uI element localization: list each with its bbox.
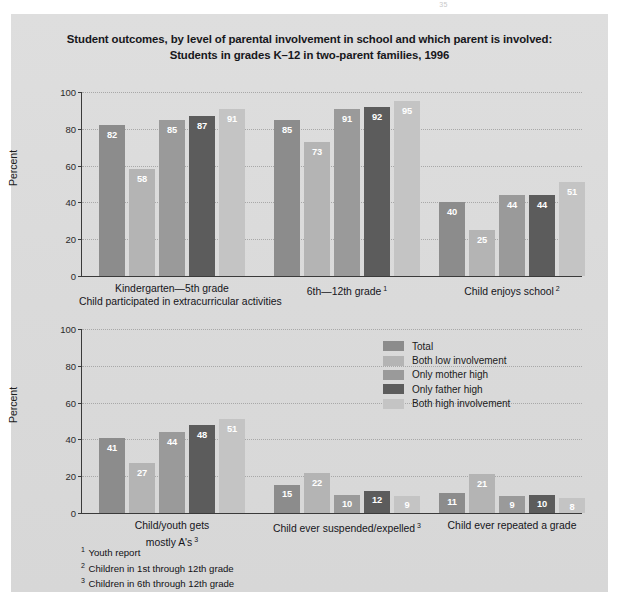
bar-value-label: 10 — [334, 499, 360, 509]
bar: 15 — [274, 485, 300, 513]
bar-value-label: 25 — [469, 235, 495, 245]
bar: 85 — [159, 120, 185, 276]
bar: 21 — [469, 474, 495, 513]
bar-value-label: 95 — [394, 106, 420, 116]
y-axis-tickmark — [78, 239, 82, 240]
page-number: 35 — [439, 1, 448, 8]
footnote: 1 Youth report — [81, 544, 234, 560]
legend-swatch — [383, 341, 404, 351]
y-axis-tickmark — [78, 329, 82, 330]
y-axis-tickmark — [78, 166, 82, 167]
bar-value-label: 40 — [439, 207, 465, 217]
legend-item: Both high involvement — [383, 397, 510, 411]
footnote: 2 Children in 1st through 12th grade — [81, 560, 234, 576]
footnote-marker: 3 — [192, 536, 198, 543]
legend-item-label: Total — [412, 341, 433, 352]
figure-title-line2: Students in grades K–12 in two-parent fa… — [11, 47, 608, 63]
y-axis-tick-label: 60 — [65, 160, 76, 171]
group-heading-label: Child participated in extracurricular ac… — [79, 296, 282, 307]
chart-panel-bottom: Percent 0204060801004127444851Child/yout… — [11, 317, 608, 582]
legend-item: Only mother high — [383, 368, 510, 382]
legend-swatch — [383, 399, 404, 409]
bar-group: 4025444451Child enjoys school 2 — [439, 92, 585, 276]
bar-value-label: 73 — [304, 147, 330, 157]
bar-value-label: 8 — [559, 502, 585, 512]
legend-item: Total — [383, 339, 510, 353]
bar-value-label: 12 — [364, 495, 390, 505]
legend-item-label: Only mother high — [412, 369, 488, 380]
bar-value-label: 11 — [439, 497, 465, 507]
figure-title: Student outcomes, by level of parental i… — [11, 31, 608, 63]
bar-value-label: 44 — [529, 200, 555, 210]
footnote-marker: 3 — [81, 577, 85, 584]
x-axis-group-label: Child enjoys school 2 — [372, 282, 620, 299]
bar-value-label: 9 — [394, 500, 420, 510]
x-axis-group-label: Child ever repeated a grade — [372, 519, 620, 533]
legend-item-label: Both high involvement — [412, 398, 510, 409]
legend-item: Both low involvement — [383, 353, 510, 367]
bar-value-label: 48 — [189, 430, 215, 440]
bar-value-label: 91 — [334, 114, 360, 124]
bar: 48 — [189, 425, 215, 513]
legend: TotalBoth low involvementOnly mother hig… — [383, 339, 510, 411]
y-axis-tick-label: 60 — [65, 397, 76, 408]
footnote: 3 Children in 6th through 12th grade — [81, 575, 234, 591]
bar: 82 — [99, 125, 125, 276]
bar-value-label: 82 — [99, 130, 125, 140]
page-canvas: 35 Student outcomes, by level of parenta… — [0, 0, 620, 604]
bar-value-label: 22 — [304, 478, 330, 488]
bar-value-label: 9 — [499, 500, 525, 510]
y-axis-tickmark — [78, 403, 82, 404]
bar: 8 — [559, 498, 585, 513]
bar-value-label: 85 — [274, 125, 300, 135]
bar: 41 — [99, 438, 125, 513]
bar: 12 — [364, 491, 390, 513]
y-axis-tick-label: 40 — [65, 434, 76, 445]
bar: 58 — [129, 169, 155, 276]
y-axis-tick-label: 0 — [71, 508, 76, 519]
legend-swatch — [383, 356, 404, 366]
y-axis-tick-label: 40 — [65, 197, 76, 208]
y-axis-tickmark — [78, 202, 82, 203]
y-axis-tickmark — [78, 439, 82, 440]
y-axis-tickmark — [78, 92, 82, 93]
footnote-marker: 2 — [554, 285, 560, 292]
bar: 44 — [529, 195, 555, 276]
bar: 11 — [439, 493, 465, 513]
bar: 73 — [304, 142, 330, 276]
bar: 85 — [274, 120, 300, 276]
chart-panel-top: Percent 0204060801008258858791Kindergart… — [11, 80, 608, 305]
plot-area-top: 0204060801008258858791Kindergarten—5th g… — [81, 92, 582, 277]
y-axis-tick-label: 20 — [65, 234, 76, 245]
y-axis-tick-label: 100 — [60, 87, 76, 98]
bar: 27 — [129, 463, 155, 513]
legend-item-label: Both low involvement — [412, 355, 507, 366]
bar: 51 — [559, 182, 585, 276]
bar: 92 — [364, 107, 390, 276]
legend-item-label: Only father high — [412, 384, 483, 395]
y-axis-tickmark — [78, 476, 82, 477]
y-axis-tick-label: 80 — [65, 360, 76, 371]
bar-value-label: 10 — [529, 499, 555, 509]
bar-value-label: 91 — [219, 114, 245, 124]
y-axis-tickmark — [78, 129, 82, 130]
y-axis-tick-label: 100 — [60, 324, 76, 335]
bar: 9 — [394, 496, 420, 513]
y-axis-tickmark — [78, 513, 82, 514]
footnotes: 1 Youth report2 Children in 1st through … — [81, 544, 234, 591]
bar-group: 4127444851Child/youth getsmostly A's 3 — [99, 329, 245, 513]
bar: 40 — [439, 202, 465, 276]
bar-value-label: 87 — [189, 121, 215, 131]
bar-value-label: 51 — [559, 187, 585, 197]
bar-value-label: 92 — [364, 112, 390, 122]
bar: 87 — [189, 116, 215, 276]
bar-value-label: 27 — [129, 468, 155, 478]
figure-container: Student outcomes, by level of parental i… — [11, 14, 608, 592]
footnote-marker: 1 — [81, 546, 85, 553]
bar: 10 — [529, 495, 555, 513]
bar: 44 — [499, 195, 525, 276]
bar-value-label: 21 — [469, 479, 495, 489]
y-axis-tickmark — [78, 366, 82, 367]
bar-group: 8258858791Kindergarten—5th grade — [99, 92, 245, 276]
bar-group: 85739192956th—12th grade 1 — [274, 92, 420, 276]
